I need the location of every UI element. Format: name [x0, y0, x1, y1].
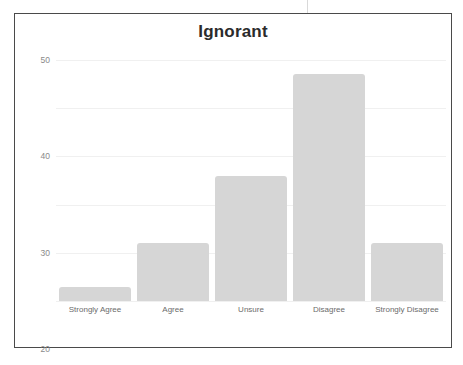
y-axis-tick-label: 20 — [41, 344, 50, 354]
page-hairline-artifact — [307, 0, 308, 14]
x-axis-tick-label: Unsure — [238, 305, 264, 314]
gridline: 0 — [56, 301, 446, 302]
chart-title: Ignorant — [15, 22, 451, 42]
bar — [59, 287, 132, 301]
y-axis-tick-label: 40 — [41, 151, 50, 161]
x-axis-tick-label: Agree — [162, 305, 183, 314]
bar-group: Unsure — [212, 60, 290, 301]
bar-series: Strongly AgreeAgreeUnsureDisagreeStrongl… — [56, 60, 446, 301]
plot-area: 01020304050 Strongly AgreeAgreeUnsureDis… — [56, 60, 446, 301]
x-axis-tick-label: Strongly Disagree — [375, 305, 439, 314]
bar-group: Disagree — [290, 60, 368, 301]
x-axis-tick-label: Strongly Agree — [69, 305, 121, 314]
y-axis-tick-label: 30 — [41, 248, 50, 258]
x-axis-tick-label: Disagree — [313, 305, 345, 314]
bar — [215, 176, 288, 301]
bar — [293, 74, 366, 301]
chart-frame: Ignorant 01020304050 Strongly AgreeAgree… — [14, 13, 452, 348]
bar — [137, 243, 210, 301]
bar-group: Strongly Agree — [56, 60, 134, 301]
bar-group: Strongly Disagree — [368, 60, 446, 301]
bar — [371, 243, 444, 301]
bar-group: Agree — [134, 60, 212, 301]
y-axis-tick-label: 50 — [41, 55, 50, 65]
